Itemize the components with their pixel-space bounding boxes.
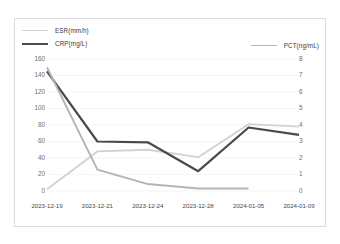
y-axis-right-tick: 2 xyxy=(299,155,303,161)
y-axis-left-tick: 160 xyxy=(34,56,45,62)
plot-area xyxy=(47,59,299,191)
y-axis-left-tick: 100 xyxy=(34,105,45,111)
x-axis-tick: 2024-01-05 xyxy=(233,202,264,209)
y-axis-right-tick: 4 xyxy=(299,122,303,128)
x-axis-tick: 2023-12-19 xyxy=(31,202,62,209)
x-axis: 2023-12-192023-12-212023-12-242023-12-28… xyxy=(15,193,327,215)
y-axis-left-tick: 20 xyxy=(38,171,45,177)
y-axis-left-tick: 120 xyxy=(34,89,45,95)
y-axis-left-tick: 60 xyxy=(38,138,45,144)
chart-plot-card: ESR(mm/h) CRP(mg/L) PCT(ng/mL) 020406080… xyxy=(14,18,326,227)
legend-swatch-pct xyxy=(251,45,277,46)
y-axis-left-tick: 140 xyxy=(34,72,45,78)
y-axis-right-tick: 8 xyxy=(299,56,303,62)
series-lines xyxy=(47,67,299,189)
legend-label-esr: ESR(mm/h) xyxy=(55,27,89,34)
y-axis-left-tick: 40 xyxy=(38,155,45,161)
y-axis-right-tick: 6 xyxy=(299,89,303,95)
x-axis-tick: 2024-01-09 xyxy=(283,202,314,209)
series-line-pct xyxy=(47,67,249,188)
y-axis-right-tick: 1 xyxy=(299,171,303,177)
chart-figure: ESR(mm/h) CRP(mg/L) PCT(ng/mL) 020406080… xyxy=(0,0,340,244)
series-canvas xyxy=(47,59,299,191)
x-axis-tick: 2023-12-28 xyxy=(183,202,214,209)
y-axis-right-tick: 7 xyxy=(299,72,303,78)
x-axis-tick: 2023-12-21 xyxy=(82,202,113,209)
series-line-crp xyxy=(47,71,299,171)
y-axis-right-tick: 5 xyxy=(299,105,303,111)
x-axis-tick: 2023-12-24 xyxy=(132,202,163,209)
legend-label-crp: CRP(mg/L) xyxy=(55,40,87,47)
y-axis-right-tick: 3 xyxy=(299,138,303,144)
y-axis-left-tick: 80 xyxy=(38,122,45,128)
